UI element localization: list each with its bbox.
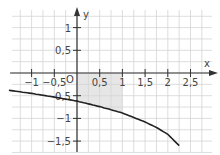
y-tick-label: 1 (65, 23, 71, 34)
chart: −1−0,50,511,522,510,5−0,5−1−1,5xyO (0, 0, 220, 155)
x-axis-label: x (204, 58, 210, 69)
origin-label: O (66, 74, 74, 85)
x-axis-arrow-icon (209, 70, 218, 76)
x-tick-label: 0,5 (92, 77, 108, 88)
y-axis-arrow-icon (74, 7, 80, 16)
y-tick-label: 0,5 (55, 45, 71, 56)
x-tick-label: 2 (165, 77, 171, 88)
x-tick-label: 2,5 (183, 77, 199, 88)
y-tick-label: −1 (56, 113, 71, 124)
x-tick-label: 1 (119, 77, 125, 88)
x-tick-label: −1 (24, 77, 39, 88)
x-tick-label: −0,5 (42, 77, 66, 88)
y-axis-label: y (83, 9, 89, 20)
plot-area: −1−0,50,511,522,510,5−0,5−1−1,5xyO (0, 0, 220, 155)
y-tick-label: −1,5 (47, 136, 71, 147)
x-tick-label: 1,5 (137, 77, 153, 88)
